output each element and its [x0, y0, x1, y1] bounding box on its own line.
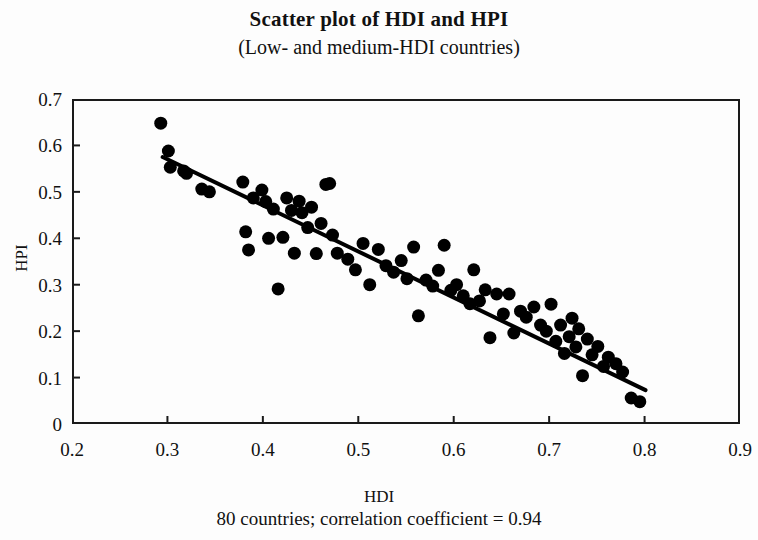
- x-tick-label: 0.2: [42, 440, 102, 459]
- y-tick-label: 0.6: [2, 136, 62, 155]
- x-tick-label: 0.5: [328, 440, 388, 459]
- scatter-plot-figure: Scatter plot of HDI and HPI (Low- and me…: [0, 0, 758, 540]
- chart-title: Scatter plot of HDI and HPI: [0, 6, 758, 32]
- y-tick-label: 0.7: [2, 90, 62, 109]
- y-tick-label: 0.4: [2, 229, 62, 248]
- x-tick-label: 0.9: [710, 440, 758, 459]
- x-tick-label: 0.7: [519, 440, 579, 459]
- y-tick-label: 0.5: [2, 183, 62, 202]
- y-tick-label: 0.2: [2, 322, 62, 341]
- y-tick-label: 0.1: [2, 369, 62, 388]
- plot-frame: [72, 99, 740, 424]
- y-axis-title: HPI: [12, 223, 32, 293]
- x-tick-label: 0.4: [233, 440, 293, 459]
- x-tick-label: 0.3: [137, 440, 197, 459]
- chart-caption: 80 countries; correlation coefficient = …: [0, 508, 758, 530]
- chart-title-block: Scatter plot of HDI and HPI (Low- and me…: [0, 6, 758, 60]
- y-tick-label: 0.3: [2, 276, 62, 295]
- x-tick-label: 0.8: [615, 440, 675, 459]
- x-axis-title: HDI: [0, 487, 758, 507]
- x-tick-label: 0.6: [424, 440, 484, 459]
- chart-subtitle: (Low- and medium-HDI countries): [0, 34, 758, 60]
- y-tick-label: 0: [2, 415, 62, 434]
